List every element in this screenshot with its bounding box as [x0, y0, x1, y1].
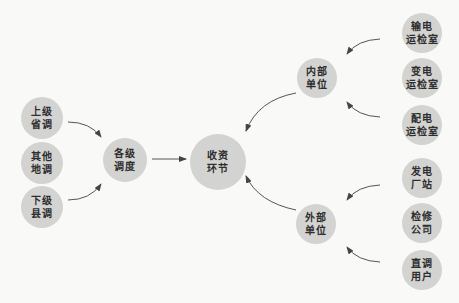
edge-shangji-to-geji — [68, 122, 101, 137]
node-jianxiu-gongsi: 检修 公司 — [402, 203, 442, 243]
edge-zhidiao-to-waibu — [347, 247, 380, 262]
node-shudian-yunjianshi: 输电 运检室 — [402, 13, 442, 53]
node-label: 上级 省调 — [31, 105, 53, 131]
node-zhidiao-yonghu: 直调 用户 — [402, 250, 442, 290]
edge-fadian-to-waibu — [347, 185, 380, 200]
node-label: 发电 厂站 — [411, 165, 433, 191]
node-label: 输电 运检室 — [406, 20, 439, 46]
node-label: 直调 用户 — [411, 257, 433, 283]
node-waibu-danwei: 外部 单位 — [296, 204, 336, 244]
node-geji-diaodu: 各级 调度 — [103, 138, 147, 182]
node-label: 各级 调度 — [114, 147, 136, 173]
node-label: 配电 运检室 — [406, 112, 439, 138]
node-label: 外部 单位 — [305, 211, 327, 237]
node-label: 收资 环节 — [207, 149, 229, 175]
node-biandian-yunjianshi: 变电 运检室 — [402, 58, 442, 98]
node-shouzi-huanjie: 收资 环节 — [190, 134, 246, 190]
node-label: 其他 地调 — [31, 150, 53, 176]
data-collection-diagram: 上级 省调 其他 地调 下级 县调 各级 调度 收资 环节 内部 单位 外部 单… — [0, 0, 459, 303]
edge-neibu-to-shouzi — [246, 93, 296, 131]
node-peidian-yunjianshi: 配电 运检室 — [402, 105, 442, 145]
node-label: 变电 运检室 — [406, 65, 439, 91]
node-label: 检修 公司 — [411, 210, 433, 236]
edge-peidian-to-neibu — [347, 102, 380, 117]
edge-xiaji-to-geji — [68, 184, 101, 200]
edge-waibu-to-shouzi — [246, 176, 296, 210]
node-label: 内部 单位 — [306, 65, 328, 91]
node-qita-didiao: 其他 地调 — [21, 142, 63, 184]
node-shangji-shengdiao: 上级 省调 — [21, 97, 63, 139]
node-label: 下级 县调 — [31, 194, 53, 220]
edge-shudian-to-neibu — [347, 39, 380, 54]
node-fadian-changzhan: 发电 厂站 — [402, 158, 442, 198]
node-neibu-danwei: 内部 单位 — [297, 58, 337, 98]
node-xiaji-xiandiao: 下级 县调 — [21, 186, 63, 228]
